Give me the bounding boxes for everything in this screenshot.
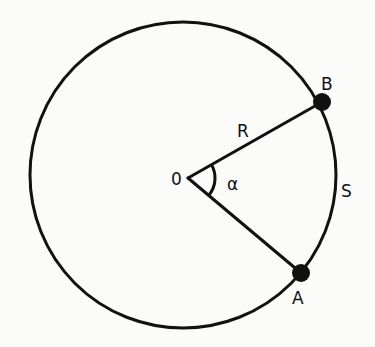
circle-arc-diagram: 0 R α S B A (0, 0, 375, 347)
angle-label-alpha: α (227, 174, 238, 194)
arc-length-label-s: S (341, 181, 352, 201)
circle-outline (30, 22, 336, 328)
radius-segment-oa (188, 178, 301, 273)
radius-segment-ob (188, 102, 322, 178)
point-a-label: A (292, 288, 304, 308)
point-b-label: B (321, 74, 333, 94)
point-b-marker (313, 93, 331, 111)
radius-label-r: R (237, 121, 249, 141)
point-a-marker (292, 264, 310, 282)
center-label-o: 0 (171, 169, 182, 189)
angle-alpha-arc (209, 165, 215, 196)
